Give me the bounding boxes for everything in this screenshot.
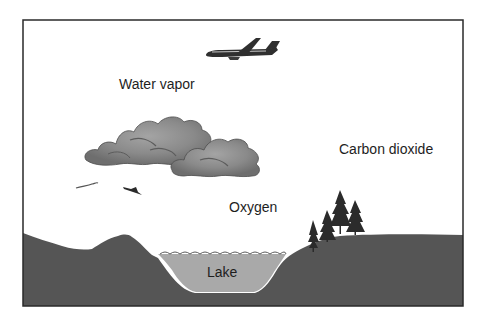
label-carbon-dioxide: Carbon dioxide: [339, 142, 433, 156]
label-water-vapor: Water vapor: [119, 77, 195, 91]
diagram-scene: Water vapor Carbon dioxide Oxygen Lake: [0, 0, 482, 324]
label-lake: Lake: [207, 265, 237, 279]
label-oxygen: Oxygen: [229, 200, 277, 214]
